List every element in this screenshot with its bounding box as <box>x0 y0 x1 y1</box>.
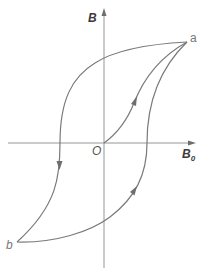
x-axis-label-subscript: 0 <box>191 154 195 163</box>
initial-curve-arrow-icon <box>131 96 137 106</box>
x-axis-label-main: B <box>182 147 191 161</box>
point-b-label: b <box>6 239 13 251</box>
hysteresis-diagram <box>0 0 211 272</box>
origin-label: O <box>92 145 101 157</box>
ascending-branch-arrow-icon <box>130 186 137 196</box>
x-axis-label: B0 <box>182 148 195 165</box>
descending-branch-curve <box>17 42 187 242</box>
x-axis <box>8 141 196 146</box>
y-axis-arrow-icon <box>102 8 107 16</box>
initial-magnetization-curve <box>104 42 187 143</box>
x-axis-arrow-icon <box>188 141 196 146</box>
y-axis <box>102 8 107 268</box>
point-a-label: a <box>190 32 197 44</box>
y-axis-label: B <box>88 12 97 24</box>
descending-branch-arrow-icon <box>57 161 63 170</box>
